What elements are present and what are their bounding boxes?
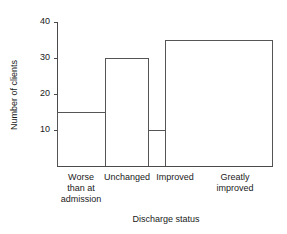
y-tick-label-20: 20 bbox=[40, 88, 50, 98]
x-label-line-1: Improved bbox=[156, 172, 194, 182]
x-axis-category-labels: Worse than at admission Unchanged Improv… bbox=[61, 172, 254, 204]
y-axis-ticks bbox=[54, 23, 58, 131]
x-label-line-1: Worse bbox=[68, 172, 94, 182]
x-label-line-2: improved bbox=[216, 183, 253, 193]
bar-greatly-improved bbox=[165, 40, 272, 167]
y-axis-tick-labels: 40 30 20 10 bbox=[40, 16, 50, 134]
bars-group bbox=[58, 40, 273, 167]
x-label-line-2: than at bbox=[67, 183, 95, 193]
x-axis-title: Discharge status bbox=[132, 214, 200, 224]
x-label-line-3: admission bbox=[61, 194, 102, 204]
x-label-line-1: Greatly bbox=[220, 172, 250, 182]
bar-improved bbox=[148, 130, 165, 167]
y-axis-title: Number of clients bbox=[9, 59, 19, 130]
y-tick-label-40: 40 bbox=[40, 16, 50, 26]
y-tick-label-10: 10 bbox=[40, 124, 50, 134]
x-label-greatly-improved: Greatly improved bbox=[216, 172, 253, 193]
x-label-line-1: Unchanged bbox=[104, 172, 150, 182]
x-label-worse-than-at-admission: Worse than at admission bbox=[61, 172, 102, 204]
bar-unchanged bbox=[105, 58, 148, 167]
bar-worse-than-at-admission bbox=[58, 112, 106, 167]
x-label-unchanged: Unchanged bbox=[104, 172, 150, 182]
chart-canvas: Number of clients 40 30 20 10 bbox=[0, 0, 287, 234]
x-label-improved: Improved bbox=[156, 172, 194, 182]
y-tick-label-30: 30 bbox=[40, 52, 50, 62]
bar-chart: Number of clients 40 30 20 10 bbox=[0, 0, 287, 234]
